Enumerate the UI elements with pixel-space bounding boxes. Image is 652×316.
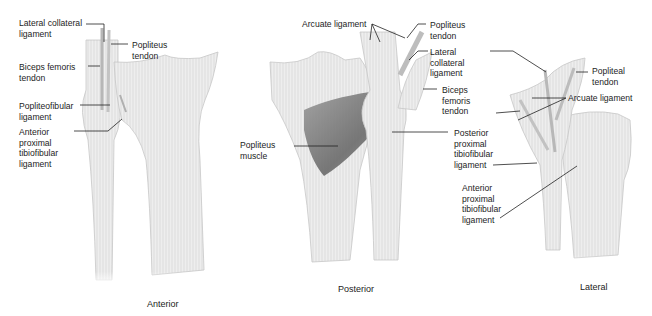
label-anterior-proximal-tibiofibular-ligament: Anterior proximal tibiofibular ligament <box>19 127 58 169</box>
label-anterior-biceps-femoris-tendon: Biceps femoris tendon <box>19 62 75 83</box>
anterior-view <box>74 24 220 285</box>
label-posterior-arcuate-ligament: Arcuate ligament <box>302 19 367 30</box>
label-posterior-biceps-femoris-tendon: Biceps femoris tendon <box>442 85 470 117</box>
label-anterior-lateral-collateral-ligament: Lateral collateral ligament <box>19 18 82 39</box>
label-posterior-popliteus-tendon: Popliteus tendon <box>430 20 465 41</box>
label-posterior-popliteus-muscle: Popliteus muscle <box>240 140 275 161</box>
label-posterior-lateral-collateral-ligament: Lateral collateral ligament <box>430 47 464 79</box>
posterior-view <box>260 24 448 280</box>
anatomy-illustration <box>0 0 652 316</box>
caption-anterior: Anterior <box>147 299 179 309</box>
label-anterior-popliteofibular-ligament: Popliteofibular ligament <box>19 101 73 122</box>
label-anterior-popliteus-tendon: Popliteus tendon <box>132 40 167 61</box>
caption-lateral: Lateral <box>580 282 608 292</box>
label-lateral-arcuate-ligament: Arcuate ligament <box>568 93 633 104</box>
label-lateral-anterior-proximal-tibiofibular-ligament: Anterior proximal tibiofibular ligament <box>462 183 501 225</box>
lateral-view <box>490 51 650 270</box>
caption-posterior: Posterior <box>338 284 374 294</box>
label-lateral-popliteal-tendon: Popliteal tendon <box>592 66 625 87</box>
label-posterior-proximal-tibiofibular-ligament: Posterior proximal tibiofibular ligament <box>454 128 493 170</box>
